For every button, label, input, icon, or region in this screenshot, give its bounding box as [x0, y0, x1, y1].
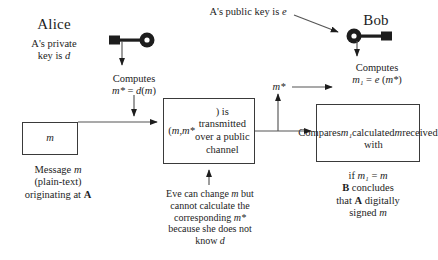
alice-private-key-icon: [108, 31, 156, 49]
eve-note: Eve can change m butcannot calculate the…: [132, 188, 288, 247]
compare-box: Compares m₁calculated withm received: [316, 104, 420, 162]
alice-title: Alice: [14, 16, 94, 34]
conclusion-note: if m₁ = mB concludesthat A digitallysign…: [308, 170, 428, 220]
message-caption: Message m(plain-text)originating at A: [6, 164, 110, 201]
bob-public-key-caption: A's public key is e: [188, 6, 308, 18]
alice-computes-label: Computesm* = d(m): [88, 73, 180, 98]
message-box: m: [22, 122, 78, 155]
mstar-label: m*: [268, 81, 290, 93]
bob-computes-label: Computesm₁ = e (m*): [322, 62, 432, 87]
alice-key-caption: A's privatekey is d: [10, 38, 98, 63]
signature-scheme-diagram: Alice A's privatekey is d A's public key…: [0, 0, 438, 260]
bob-public-key-icon: [345, 27, 393, 45]
channel-box: (m, m*) istransmittedover a publicchanne…: [163, 98, 255, 164]
